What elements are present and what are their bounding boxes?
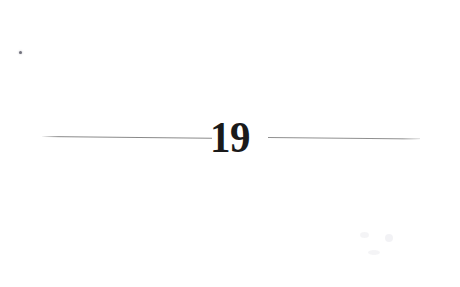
chapter-divider: 19 bbox=[0, 0, 460, 287]
scanned-page: 19 bbox=[0, 0, 460, 287]
